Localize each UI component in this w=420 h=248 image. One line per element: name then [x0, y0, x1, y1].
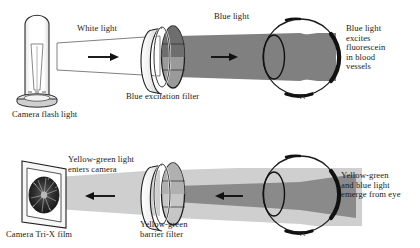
label-yellow-green-barrier-filter: Yellow-green barrier filter	[140, 220, 188, 239]
label-yellow-green-light-enters-camera: Yellow-green light enters camera	[68, 155, 134, 174]
tri-x-film-holder	[22, 161, 66, 228]
label-yellow-green-and-blue-light-emerge: Yellow-green and blue light emerge from …	[341, 171, 401, 200]
label-blue-light: Blue light	[214, 12, 249, 22]
diagram-canvas: Camera flash light White light Blue ligh…	[0, 0, 420, 248]
camera-flash-lamp	[17, 15, 57, 107]
label-blue-light-excites-fluorescein: Blue light excites fluorescein in blood …	[346, 24, 385, 72]
blue-beam-in-eye	[280, 30, 340, 84]
label-camera-tri-x-film: Camera Tri-X film	[6, 230, 72, 240]
label-white-light: White light	[77, 24, 117, 34]
label-camera-flash-light: Camera flash light	[12, 110, 77, 120]
blue-excitation-filter-disc	[141, 26, 185, 94]
label-blue-excitation-filter: Blue excitation filter	[126, 92, 199, 102]
